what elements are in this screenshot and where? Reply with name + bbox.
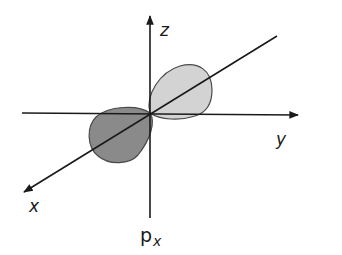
y-axis-label: y (275, 129, 287, 149)
z-axis-label: z (159, 20, 170, 40)
x-axis-label: x (28, 196, 40, 216)
y-axis (22, 113, 298, 115)
negative-lobe (89, 107, 152, 162)
orbital-diagram: z y x px (0, 0, 342, 255)
positive-lobe (149, 65, 212, 119)
orbital-caption: px (140, 224, 162, 249)
